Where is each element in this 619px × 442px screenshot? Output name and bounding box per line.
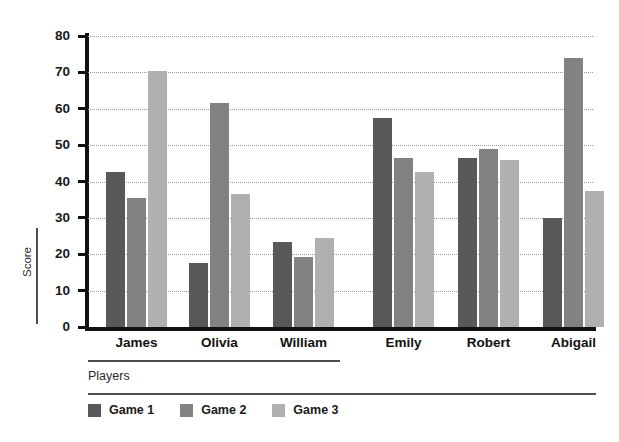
x-axis-category-label: Abigail: [531, 335, 616, 350]
legend-swatch-icon: [180, 404, 193, 417]
x-axis-category-label: Emily: [361, 335, 446, 350]
y-axis-tick: [78, 289, 86, 292]
bar: [394, 158, 413, 327]
legend-item[interactable]: Game 1: [88, 403, 154, 417]
bar: [273, 242, 292, 327]
bar: [585, 191, 604, 327]
bar: [415, 172, 434, 327]
y-axis-tick-label: 30: [38, 211, 70, 225]
y-axis-tick: [78, 180, 86, 183]
legend-label: Game 2: [201, 403, 246, 417]
y-axis-tick: [78, 253, 86, 256]
y-axis-tick: [78, 35, 86, 38]
x-axis-category-label: William: [261, 335, 346, 350]
bar: [564, 58, 583, 327]
y-axis-tick: [78, 71, 86, 74]
y-axis-tick: [78, 144, 86, 147]
x-axis-category-label: James: [94, 335, 179, 350]
y-axis-tick-label: 0: [38, 320, 70, 334]
legend-item[interactable]: Game 2: [180, 403, 246, 417]
bar: [479, 149, 498, 327]
plot-area: [88, 36, 593, 327]
x-axis-category-label: Olivia: [177, 335, 262, 350]
legend-item[interactable]: Game 3: [272, 403, 338, 417]
bar: [210, 103, 229, 327]
y-axis-label-group: Score: [16, 228, 38, 324]
x-axis-title-rule: [88, 360, 340, 362]
y-axis-tick: [78, 326, 86, 329]
x-axis-line: [85, 327, 596, 331]
bar: [148, 71, 167, 327]
y-axis-tick-label: 80: [38, 29, 70, 43]
bar: [294, 257, 313, 327]
y-axis-tick: [78, 107, 86, 110]
x-axis-category-label: Robert: [446, 335, 531, 350]
y-axis-tick-label: 20: [38, 247, 70, 261]
bar: [500, 160, 519, 327]
bar: [189, 263, 208, 327]
y-axis-tick-label: 50: [38, 138, 70, 152]
bar: [231, 194, 250, 327]
y-axis-title: Score: [21, 229, 33, 295]
bar: [543, 218, 562, 327]
y-axis-tick-label: 10: [38, 284, 70, 298]
chart-legend: Game 1Game 2Game 3: [88, 403, 339, 417]
legend-swatch-icon: [272, 404, 285, 417]
legend-label: Game 1: [109, 403, 154, 417]
x-axis-title: Players: [88, 369, 130, 383]
y-axis-tick-label: 40: [38, 175, 70, 189]
bar: [373, 118, 392, 327]
legend-label: Game 3: [293, 403, 338, 417]
bar-chart: Score 01020304050607080 JamesOliviaWilli…: [0, 0, 619, 442]
bar: [127, 198, 146, 327]
bar: [315, 238, 334, 327]
legend-rule: [88, 393, 596, 395]
bars-layer: [88, 36, 593, 327]
y-axis-tick: [78, 216, 86, 219]
bar: [458, 158, 477, 327]
y-axis-tick-label: 70: [38, 65, 70, 79]
legend-swatch-icon: [88, 404, 101, 417]
y-axis-label-rule: [36, 228, 38, 324]
bar: [106, 172, 125, 327]
y-axis-tick-label: 60: [38, 102, 70, 116]
